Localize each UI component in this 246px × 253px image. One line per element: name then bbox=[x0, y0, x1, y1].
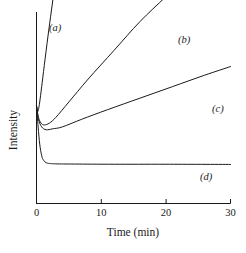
x-tick-label-30: 30 bbox=[225, 207, 236, 218]
x-tick-label-0: 0 bbox=[34, 207, 39, 218]
curve-label-b: (b) bbox=[178, 34, 191, 46]
chart-figure: 0 10 20 30 Time (min) Intensity (a) (b) … bbox=[0, 0, 246, 253]
curve-label-a: (a) bbox=[49, 22, 62, 34]
x-tick-label-10: 10 bbox=[96, 207, 107, 218]
y-axis-title: Intensity bbox=[7, 110, 20, 150]
x-tick-label-20: 20 bbox=[161, 207, 172, 218]
chart-svg: 0 10 20 30 Time (min) Intensity (a) (b) … bbox=[0, 0, 246, 253]
x-axis-title: Time (min) bbox=[107, 226, 159, 239]
curve-label-d: (d) bbox=[200, 171, 213, 183]
curve-label-c: (c) bbox=[212, 103, 224, 115]
